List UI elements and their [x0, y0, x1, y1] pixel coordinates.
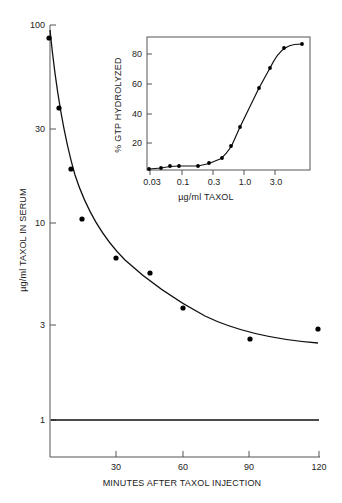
main-y-ticks: 100 30 10 3 1	[30, 20, 56, 425]
y-tick-30: 30	[35, 124, 45, 134]
inset-x-ticks: 0.03 0.1 0.3 1.0 3.0	[143, 170, 282, 187]
inset-y-tick-40: 40	[132, 109, 142, 119]
y-tick-10: 10	[35, 218, 45, 228]
inset-x-tick-0.03: 0.03	[143, 177, 161, 187]
inset-x-tick-0.1: 0.1	[177, 177, 190, 187]
x-tick-60: 60	[178, 462, 188, 472]
main-x-ticks: 30 60 90 120	[111, 451, 327, 472]
x-tick-90: 90	[244, 462, 254, 472]
y-tick-100: 100	[30, 20, 45, 30]
inset-y-axis-label: % GTP HYDROLYZED	[113, 57, 123, 153]
main-x-axis-label: MINUTES AFTER TAXOL INJECTION	[103, 478, 262, 488]
inset-x-tick-0.3: 0.3	[208, 177, 221, 187]
inset-x-tick-3.0: 3.0	[270, 177, 283, 187]
y-tick-1: 1	[40, 415, 45, 425]
x-tick-120: 120	[311, 462, 326, 472]
y-tick-3: 3	[40, 320, 45, 330]
inset-y-tick-80: 80	[132, 49, 142, 59]
inset-x-tick-1.0: 1.0	[239, 177, 252, 187]
inset-x-axis-label: µg/ml TAXOL	[178, 192, 234, 202]
inset-y-tick-20: 20	[132, 138, 142, 148]
inset-chart: 80 60 40 20 0.03 0.1 0.3 1.0 3.0 µg/ml T…	[113, 37, 310, 202]
x-tick-30: 30	[111, 462, 121, 472]
inset-y-tick-60: 60	[132, 79, 142, 89]
figure: 100 30 10 3 1 30 60 90 120 MINUTES AFTER…	[0, 0, 342, 503]
main-y-axis-label: µg/ml TAXOL IN SERUM	[18, 188, 28, 292]
